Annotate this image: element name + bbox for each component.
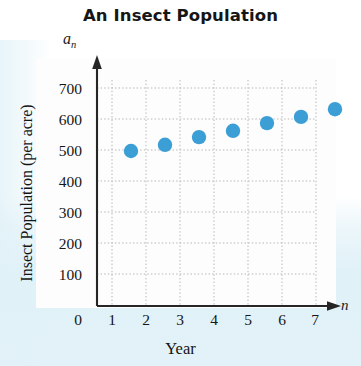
y-tick-label-600: 600 — [38, 111, 82, 129]
x-tick-label-4: 4 — [203, 311, 225, 329]
y-tick-label-700: 700 — [38, 80, 82, 98]
data-point-6 — [294, 110, 308, 124]
y-axis-variable-symbol: an — [63, 30, 76, 50]
data-point-4 — [226, 124, 240, 138]
data-point-7 — [328, 102, 342, 116]
y-tick-label-300: 300 — [38, 204, 82, 222]
chart-title: An Insect Population — [0, 6, 361, 25]
y-tick-label-200: 200 — [38, 235, 82, 253]
horizontal-gridlines — [97, 88, 316, 274]
x-tick-label-6: 6 — [271, 311, 293, 329]
y-axis-title: Insect Population (per acre) — [18, 68, 36, 318]
x-tick-label-5: 5 — [237, 311, 259, 329]
y-tick-label-400: 400 — [38, 173, 82, 191]
x-axis-arrowhead — [327, 301, 341, 310]
y-tick-label-100: 100 — [38, 266, 82, 284]
data-point-3 — [192, 130, 206, 144]
y-axis-symbol-subscript: n — [71, 39, 76, 50]
y-tick-label-500: 500 — [38, 142, 82, 160]
x-tick-label-1: 1 — [101, 311, 123, 329]
vertical-gridlines — [112, 80, 316, 305]
x-tick-label-7: 7 — [304, 311, 326, 329]
y-axis-arrowhead — [92, 55, 102, 69]
x-axis-title: Year — [0, 339, 361, 359]
data-point-1 — [124, 144, 138, 158]
x-tick-label-2: 2 — [135, 311, 157, 329]
data-point-5 — [260, 116, 274, 130]
x-axis-variable-symbol: n — [341, 297, 349, 314]
x-tick-label-0: 0 — [67, 311, 89, 329]
data-point-2 — [158, 138, 172, 152]
y-axis-symbol-base: a — [63, 30, 71, 47]
x-tick-label-3: 3 — [169, 311, 191, 329]
